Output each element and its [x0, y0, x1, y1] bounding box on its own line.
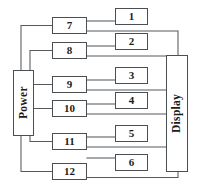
- block-node-11[interactable]: 11: [52, 133, 87, 150]
- block-node-4[interactable]: 4: [115, 92, 148, 109]
- block-node-9[interactable]: 9: [52, 76, 87, 93]
- block-node-10[interactable]: 10: [52, 100, 87, 117]
- wire-power-to-11: [30, 136, 52, 142]
- block-node-1[interactable]: 1: [115, 8, 148, 25]
- wire-power-to-8: [30, 51, 52, 71]
- block-node-6[interactable]: 6: [115, 154, 148, 171]
- block-node-7[interactable]: 7: [52, 17, 87, 34]
- block-node-5[interactable]: 5: [115, 125, 148, 142]
- block-node-8[interactable]: 8: [52, 42, 87, 59]
- display-block[interactable]: Display: [166, 55, 188, 172]
- block-node-3[interactable]: 3: [115, 67, 148, 84]
- wire-n12-to-display: [87, 172, 178, 178]
- wire-power-to-7: [21, 26, 52, 71]
- block-node-12[interactable]: 12: [52, 163, 87, 180]
- power-block[interactable]: Power: [13, 70, 34, 136]
- block-diagram-canvas: Power Display 789101112 123456: [0, 0, 199, 191]
- block-node-2[interactable]: 2: [115, 33, 148, 50]
